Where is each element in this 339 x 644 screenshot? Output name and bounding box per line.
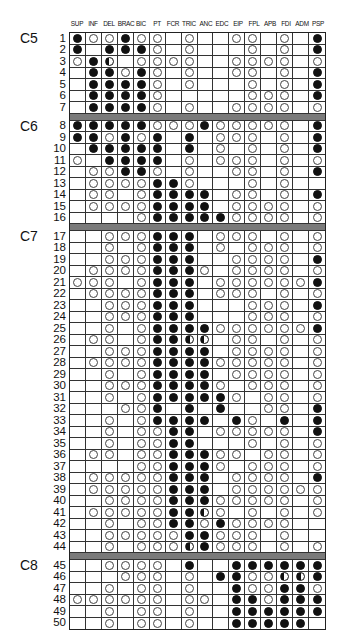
cell-pt [150,243,166,254]
cell-tric [182,484,198,495]
cell-pt [150,369,166,380]
grid-row-28 [70,358,325,370]
grid-row-18 [70,243,325,255]
cell-fcr [166,190,182,201]
grid-row-6 [70,91,325,103]
cell-apb [261,167,277,178]
filled-circle-icon [248,595,257,604]
cell-sup [70,254,86,265]
open-circle-icon [105,167,114,176]
filled-circle-icon [153,266,162,275]
cell-anc [198,155,214,166]
cell-inf [86,381,102,392]
cell-sup [70,33,86,44]
cell-inf [86,519,102,530]
cell-fdi [277,132,293,143]
open-circle-icon [264,278,273,287]
open-circle-icon [280,278,289,287]
open-circle-icon [232,335,241,344]
cell-brac [118,595,134,606]
cell-pt [150,102,166,113]
filled-circle-icon [121,103,130,112]
cell-psp [309,231,325,242]
filled-circle-icon [121,167,130,176]
cell-del [102,346,118,357]
cell-fpl [245,289,261,300]
cell-apb [261,583,277,594]
cell-fcr [166,56,182,67]
filled-circle-icon [216,572,225,581]
grid-row-20 [70,266,325,278]
row-number: 16 [50,212,66,224]
cell-brac [118,583,134,594]
cell-brac [118,618,134,630]
cell-bic [134,68,150,79]
filled-circle-icon [153,381,162,390]
cell-psp [309,167,325,178]
cell-bic [134,560,150,571]
open-circle-icon [248,179,257,188]
cell-anc [198,79,214,90]
open-circle-icon [121,404,130,413]
cell-fcr [166,266,182,277]
open-circle-icon [121,202,130,211]
cell-brac [118,56,134,67]
column-header-brac: BRAC [118,20,133,27]
open-circle-icon [105,358,114,367]
filled-circle-icon [169,179,178,188]
cell-edc [213,438,229,449]
cell-fpl [245,595,261,606]
open-circle-icon [137,404,146,413]
cell-eip [229,583,245,594]
cell-del [102,358,118,369]
cell-sup [70,519,86,530]
open-circle-icon [216,324,225,333]
cell-edc [213,450,229,461]
filled-circle-icon [185,450,194,459]
cell-edc [213,572,229,583]
open-circle-icon [153,473,162,482]
cell-brac [118,381,134,392]
cell-brac [118,473,134,484]
cell-bic [134,461,150,472]
open-circle-icon [280,202,289,211]
row-number: 22 [50,288,66,300]
open-circle-icon [185,595,194,604]
open-circle-icon [185,57,194,66]
filled-circle-icon [169,473,178,482]
open-circle-icon [137,202,146,211]
filled-circle-icon [121,91,130,100]
filled-circle-icon [137,68,146,77]
cell-bic [134,213,150,224]
filled-circle-icon [73,45,82,54]
row-number: 4 [50,67,66,79]
row-number: 44 [50,541,66,553]
cell-tric [182,254,198,265]
grid-row-42 [70,519,325,531]
cell-sup [70,266,86,277]
open-circle-icon [121,358,130,367]
column-header-eip: EIP [230,20,245,27]
cell-fdi [277,254,293,265]
cell-del [102,213,118,224]
open-circle-icon [264,595,273,604]
row-number: 36 [50,449,66,461]
cell-psp [309,572,325,583]
row-number: 48 [50,594,66,606]
cell-apb [261,542,277,553]
open-circle-icon [264,324,273,333]
cell-del [102,132,118,143]
row-number: 2 [50,44,66,56]
filled-circle-icon [185,213,194,222]
filled-circle-icon [153,213,162,222]
cell-anc [198,231,214,242]
cell-fcr [166,346,182,357]
cell-tric [182,102,198,113]
cell-brac [118,144,134,155]
open-circle-icon [105,255,114,264]
open-circle-icon [313,266,322,275]
cell-eip [229,542,245,553]
open-circle-icon [248,508,257,517]
cell-edc [213,335,229,346]
grid-row-41 [70,507,325,519]
